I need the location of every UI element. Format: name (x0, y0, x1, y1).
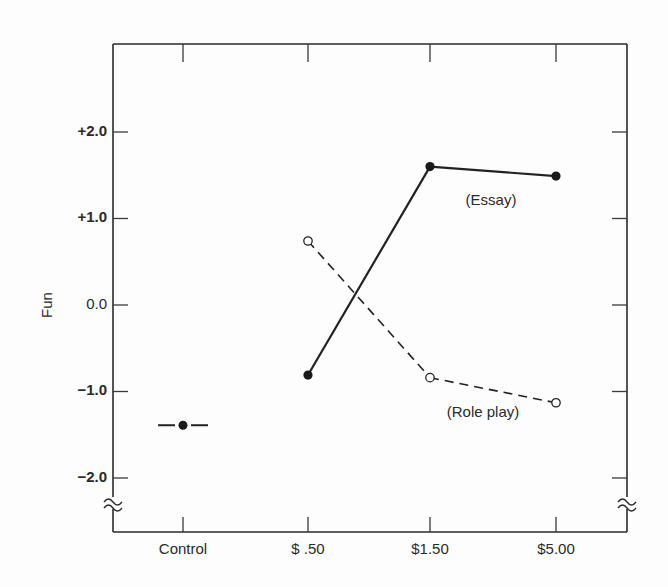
data-point-essay (303, 370, 312, 379)
series-segment-essay (308, 167, 430, 375)
data-point-role-play (426, 373, 434, 381)
series-label-essay: (Essay) (466, 191, 517, 208)
x-tick-label: Control (159, 540, 207, 557)
series-label-role-play: (Role play) (447, 403, 520, 420)
plot-frame (104, 44, 636, 532)
y-tick-label: +1.0 (77, 208, 107, 225)
series-segment-essay (430, 167, 556, 177)
data-point-essay (551, 172, 560, 181)
chart: +2.0+1.00.0−1.0−2.0 Control$ .50$1.50$5.… (0, 0, 668, 587)
data-point-control (179, 421, 188, 430)
data-point-role-play (552, 399, 560, 407)
y-tick-labels: +2.0+1.00.0−1.0−2.0 (77, 122, 107, 485)
x-tick-label: $5.00 (537, 540, 575, 557)
x-tick-labels: Control$ .50$1.50$5.00 (159, 540, 575, 557)
left-axis-break-mark (104, 499, 122, 505)
right-axis-break-mark (618, 499, 636, 505)
y-axis-title: Fun (38, 292, 55, 318)
data-point-role-play (304, 237, 312, 245)
y-tick-label: 0.0 (86, 295, 107, 312)
series-segment-role-play (430, 378, 556, 403)
y-tick-label: −1.0 (77, 381, 107, 398)
axis-ticks (113, 44, 627, 532)
x-tick-label: $1.50 (411, 540, 449, 557)
data-point-essay (425, 162, 434, 171)
x-tick-label: $ .50 (291, 540, 324, 557)
y-tick-label: −2.0 (77, 468, 107, 485)
y-tick-label: +2.0 (77, 122, 107, 139)
series-segment-role-play (308, 241, 430, 378)
